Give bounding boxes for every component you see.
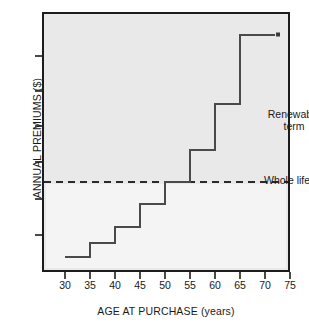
- plot-area: Renewable term Whole life: [42, 12, 290, 272]
- annotation-renewable-term-line1: Renewable: [263, 108, 309, 120]
- series-endpoint-marker: [276, 33, 280, 37]
- series-renewable-term-step: [65, 35, 275, 257]
- x-tick-label: 50: [153, 279, 177, 291]
- annotation-renewable-term-line2: term: [263, 120, 309, 132]
- x-tick-label: 40: [103, 279, 127, 291]
- x-tick-label: 35: [78, 279, 102, 291]
- x-axis-ticks: [65, 272, 290, 279]
- annotation-renewable-term: Renewable term: [263, 108, 309, 132]
- x-axis-title: AGE AT PURCHASE (years): [42, 305, 290, 317]
- chart-figure: ANNUAL PREMIUMS ($): [0, 0, 309, 331]
- plot-canvas: [42, 12, 290, 272]
- x-tick-label: 70: [253, 279, 277, 291]
- x-tick-label: 45: [128, 279, 152, 291]
- annotation-whole-life: Whole life: [264, 174, 309, 186]
- x-tick-label: 30: [53, 279, 77, 291]
- x-tick-label: 75: [278, 279, 302, 291]
- x-tick-label: 55: [178, 279, 202, 291]
- x-tick-label: 65: [228, 279, 252, 291]
- x-tick-label: 60: [203, 279, 227, 291]
